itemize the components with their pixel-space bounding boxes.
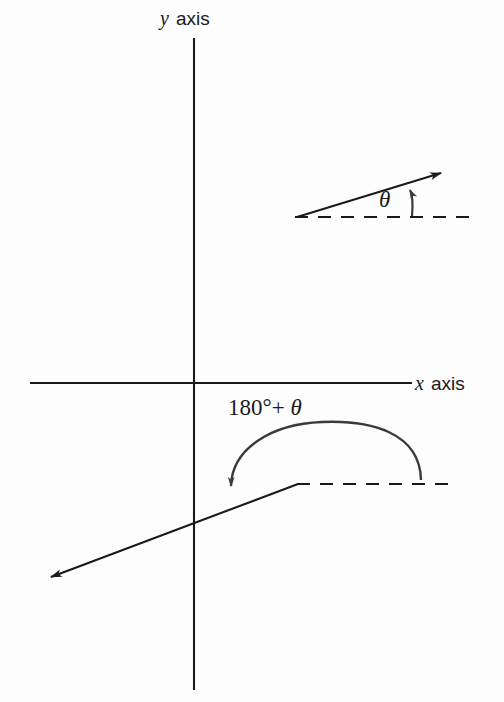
angle-sum-label: 180°+ θ xyxy=(228,396,302,419)
x-axis-label: xaxis xyxy=(415,373,465,393)
angle-sum-theta: θ xyxy=(285,395,302,420)
angle-sum-degrees: 180°+ xyxy=(228,395,285,420)
diagram-canvas xyxy=(0,0,504,702)
y-axis-label: yaxis xyxy=(160,8,210,28)
lower-terminal-ray xyxy=(51,484,298,577)
theta-arc-arrow xyxy=(410,190,413,216)
x-axis-word: axis xyxy=(431,373,465,394)
angle-diagram-figure: yaxis xaxis θ 180°+ θ xyxy=(0,0,504,702)
upper-terminal-ray xyxy=(297,173,441,217)
y-axis-word: axis xyxy=(176,8,210,29)
x-axis-variable: x xyxy=(415,372,424,394)
theta-angle-label: θ xyxy=(379,188,390,211)
y-axis-variable: y xyxy=(160,7,169,29)
angle-sum-arc-arrow xyxy=(231,422,421,486)
